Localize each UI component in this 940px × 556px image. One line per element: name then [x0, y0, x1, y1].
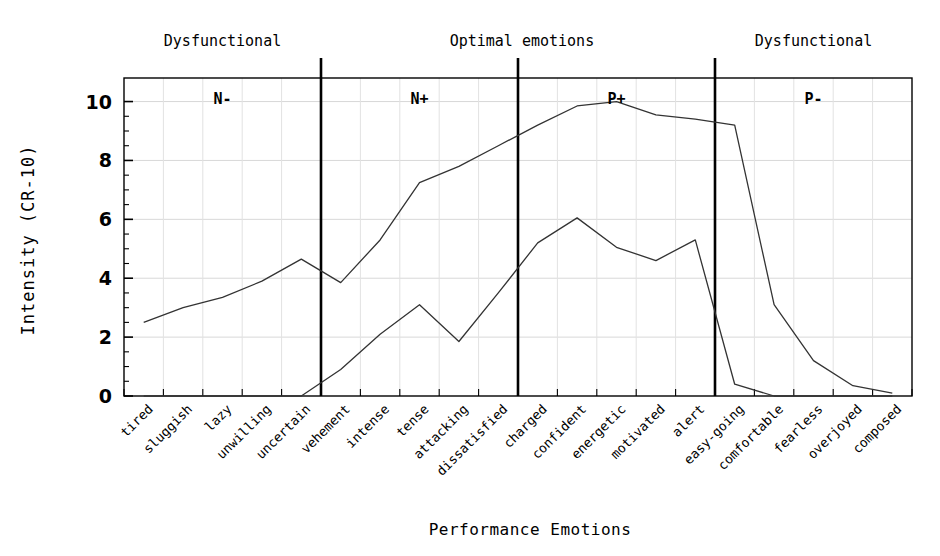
- x-tick-label: alert: [669, 402, 707, 440]
- chart-figure: 0246810 tiredsluggishlazyunwillinguncert…: [0, 0, 940, 556]
- zone-dividers: [321, 58, 715, 396]
- y-tick-label: 4: [99, 267, 112, 289]
- x-tick-labels: tiredsluggishlazyunwillinguncertainvehem…: [118, 401, 905, 478]
- x-axis-title: Performance Emotions: [429, 520, 632, 539]
- y-tick-label: 2: [99, 326, 112, 348]
- zone-code-label: P-: [804, 90, 822, 108]
- line-chart-svg: 0246810 tiredsluggishlazyunwillinguncert…: [0, 0, 940, 556]
- x-tick-label: tired: [118, 402, 156, 440]
- x-tick-label: intense: [343, 401, 392, 450]
- y-tick-label: 0: [99, 385, 112, 407]
- zone-code-label: P+: [607, 90, 625, 108]
- y-tick-label: 8: [99, 149, 112, 171]
- y-tick-labels: 0246810: [86, 91, 112, 407]
- zone-header-label: Dysfunctional: [164, 32, 281, 50]
- zone-code-label: N-: [213, 90, 231, 108]
- x-tick-label: dissatisfied: [433, 402, 510, 479]
- y-tick-label: 10: [86, 91, 112, 113]
- y-axis-title: Intensity (CR-10): [18, 145, 38, 336]
- plot-wrapper: 0246810 tiredsluggishlazyunwillinguncert…: [0, 0, 940, 556]
- zone-header-label: Optimal emotions: [450, 32, 595, 50]
- x-tick-label: lazy: [202, 401, 235, 434]
- zone-header-label: Dysfunctional: [755, 32, 872, 50]
- y-tick-label: 6: [99, 208, 112, 230]
- zone-code-label: N+: [410, 90, 428, 108]
- x-tick-label: tense: [393, 401, 431, 439]
